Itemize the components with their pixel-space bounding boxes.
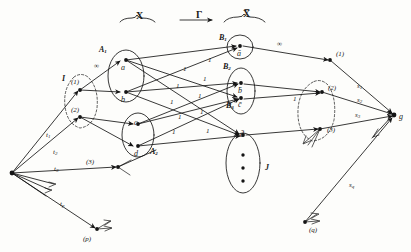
- J-to-sink-edges: [305, 60, 392, 222]
- I-to-A-edges: [80, 61, 156, 167]
- B-to-J-edges: [243, 46, 328, 135]
- tick-marks: [97, 160, 320, 231]
- diagram-graphics: [0, 0, 411, 252]
- node-dots: [10, 44, 397, 231]
- b3-vertical-dots: [241, 153, 244, 182]
- j3-incoming-ticks: [303, 129, 320, 147]
- source-edges: [12, 91, 116, 228]
- brace-xbar-underbrace: [224, 14, 265, 22]
- set-B3-ellipse: [226, 133, 260, 193]
- bipartite-edges: [126, 46, 240, 146]
- set-A1-ellipse: [108, 50, 144, 102]
- set-B2-ellipse: [227, 68, 255, 114]
- brace-x-underbrace: [120, 15, 155, 22]
- diagram-canvas: XΓX̅IA1A2B1B2B3J∞∞t1t2t3tps1s2s3sq111111…: [0, 0, 411, 252]
